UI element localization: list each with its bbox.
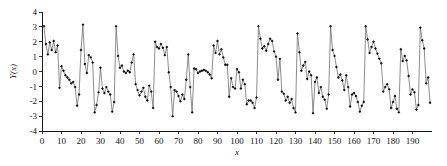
data-point bbox=[259, 37, 262, 40]
data-point bbox=[331, 48, 334, 51]
x-tick-label: 180 bbox=[386, 136, 400, 146]
data-point bbox=[277, 78, 280, 81]
data-point bbox=[378, 57, 381, 60]
data-point bbox=[187, 53, 190, 56]
data-point bbox=[226, 63, 229, 66]
data-point bbox=[317, 92, 320, 95]
x-tick-label: 150 bbox=[328, 136, 342, 146]
data-point bbox=[314, 80, 317, 83]
data-point bbox=[113, 101, 116, 104]
x-tick-label: 190 bbox=[406, 136, 420, 146]
data-point bbox=[138, 94, 141, 97]
data-point bbox=[360, 104, 363, 107]
data-point bbox=[335, 66, 338, 69]
data-point bbox=[83, 63, 86, 66]
data-point bbox=[60, 65, 63, 68]
data-point bbox=[239, 87, 242, 90]
y-tick-label: -2 bbox=[30, 96, 38, 106]
data-point bbox=[405, 59, 408, 62]
data-point bbox=[210, 77, 213, 80]
y-tick-label: 2 bbox=[33, 37, 38, 47]
y-tick-label: 3 bbox=[33, 22, 38, 32]
data-point bbox=[93, 111, 96, 114]
data-point bbox=[298, 51, 301, 54]
data-point bbox=[181, 93, 184, 96]
x-tick-label: 120 bbox=[269, 136, 283, 146]
data-point bbox=[415, 108, 418, 111]
chart-page: 43210-1-2-3-4010203040506070809010011012… bbox=[0, 0, 447, 166]
y-tick-label: -4 bbox=[30, 126, 38, 136]
data-point bbox=[191, 111, 194, 114]
data-point bbox=[144, 95, 147, 98]
x-axis-title: x bbox=[234, 147, 239, 157]
data-point bbox=[101, 87, 104, 90]
data-point bbox=[255, 96, 258, 99]
x-tick-label: 140 bbox=[308, 136, 322, 146]
data-point bbox=[222, 56, 225, 59]
data-point bbox=[241, 78, 244, 81]
data-point bbox=[329, 25, 332, 28]
x-tick-label: 110 bbox=[250, 136, 264, 146]
data-point bbox=[43, 25, 46, 28]
data-point bbox=[304, 60, 307, 63]
data-point bbox=[76, 104, 79, 107]
data-point bbox=[103, 92, 106, 95]
data-point bbox=[316, 76, 319, 79]
data-point bbox=[169, 86, 172, 89]
data-point bbox=[327, 93, 330, 96]
data-point bbox=[349, 105, 352, 108]
data-point bbox=[152, 106, 155, 109]
data-point bbox=[425, 82, 428, 85]
data-point bbox=[245, 103, 248, 106]
x-tick-label: 40 bbox=[116, 136, 126, 146]
data-point bbox=[288, 101, 291, 104]
data-point bbox=[306, 77, 309, 80]
data-point bbox=[50, 48, 53, 51]
data-point bbox=[407, 75, 410, 78]
data-point bbox=[394, 95, 397, 98]
data-point bbox=[189, 86, 192, 89]
data-point bbox=[148, 84, 151, 87]
y-tick-label: 1 bbox=[33, 52, 38, 62]
data-point bbox=[185, 78, 188, 81]
data-point bbox=[319, 86, 322, 89]
data-point bbox=[130, 61, 133, 64]
y-axis-title: Y(x) bbox=[8, 64, 18, 79]
data-point bbox=[214, 51, 217, 54]
data-point bbox=[177, 95, 180, 98]
data-point bbox=[366, 38, 369, 41]
data-point bbox=[218, 53, 221, 56]
data-point bbox=[397, 111, 400, 114]
data-point bbox=[403, 54, 406, 57]
data-point bbox=[160, 43, 163, 46]
data-point bbox=[78, 93, 81, 96]
data-point bbox=[183, 98, 186, 101]
data-point bbox=[58, 86, 61, 89]
data-point bbox=[163, 54, 166, 57]
data-point bbox=[310, 74, 313, 77]
x-tick-label: 160 bbox=[347, 136, 361, 146]
data-point bbox=[390, 106, 393, 109]
data-point bbox=[150, 90, 153, 93]
data-point bbox=[257, 25, 260, 28]
data-point bbox=[54, 51, 57, 54]
data-point bbox=[85, 72, 88, 75]
data-point bbox=[165, 46, 168, 49]
x-tick-label: 90 bbox=[213, 136, 223, 146]
data-point bbox=[376, 52, 379, 55]
data-point bbox=[368, 51, 371, 54]
data-point bbox=[243, 83, 246, 86]
data-point bbox=[216, 40, 219, 43]
data-point bbox=[392, 101, 395, 104]
data-point bbox=[302, 64, 305, 67]
data-point bbox=[290, 98, 293, 101]
data-point bbox=[358, 110, 361, 113]
data-point bbox=[146, 99, 149, 102]
data-point bbox=[364, 25, 367, 28]
data-point bbox=[372, 40, 375, 43]
data-point bbox=[341, 79, 344, 82]
x-tick-label: 50 bbox=[135, 136, 145, 146]
y-tick-label: 4 bbox=[33, 7, 38, 17]
x-tick-label: 80 bbox=[194, 136, 204, 146]
data-point bbox=[48, 41, 51, 44]
